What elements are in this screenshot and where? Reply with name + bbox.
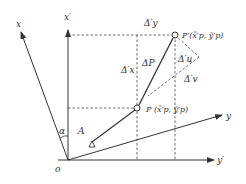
label-delta-y-prime: Δ′y [143,18,159,28]
point-P-prime-circle [172,32,178,38]
x-axis [21,32,68,160]
point-P-circle [134,105,140,111]
label-y: y [225,111,232,121]
label-origin: o [55,164,61,174]
point-A-triangle-icon [89,141,95,147]
vector-delta-P [139,38,173,105]
angle-arc [60,136,68,138]
vector-A-to-P [92,110,135,142]
label-y-prime: y′ [216,155,224,165]
label-delta-v-prime: Δ′v [183,74,198,84]
y-axis [68,115,222,160]
label-P-prime: P′(x̃′p, ỹ′p) [181,31,223,40]
label-delta-P: ΔP [141,58,155,68]
label-delta-x-prime: Δ′x [120,65,135,75]
label-x-prime: x′ [64,12,71,22]
label-delta-u-prime: Δ′u [177,54,193,64]
label-x: x [16,19,21,29]
label-A: A [77,126,85,136]
coordinate-diagram: x′ y′ x y o α A P (x̃′p, ỹ′p) P′(x̃′p, ỹ… [0,0,246,184]
label-P: P (x̃′p, ỹ′p) [145,105,188,114]
label-alpha: α [59,126,65,136]
